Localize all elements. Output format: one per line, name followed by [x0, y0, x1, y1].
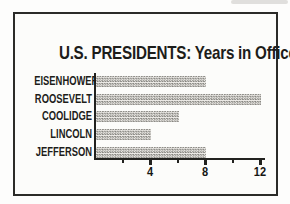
scan-artifact	[231, 0, 288, 4]
x-tick-label-4: 4	[142, 165, 159, 179]
x-tick-10	[232, 159, 234, 163]
category-label-lincoln: LINCOLN	[34, 128, 92, 141]
bar-jefferson	[96, 147, 206, 158]
category-label-eisenhower: EISENHOWER	[34, 75, 92, 88]
category-label-coolidge: COOLIDGE	[34, 110, 92, 123]
bar-row: EISENHOWER	[15, 75, 276, 88]
x-tick-label-8: 8	[197, 165, 214, 179]
bar-lincoln	[96, 129, 151, 140]
bar-row: LINCOLN	[15, 128, 276, 141]
bar-coolidge	[96, 111, 179, 122]
bar-row: JEFFERSON	[15, 146, 276, 159]
category-label-jefferson: JEFFERSON	[34, 146, 92, 159]
x-tick-6	[177, 159, 179, 163]
plot-area: EISENHOWER ROOSEVELT COOLIDGE LINCOLN JE…	[15, 14, 276, 194]
bar-roosevelt	[96, 94, 261, 105]
chart-frame: U.S. PRESIDENTS: Years in Office EISENHO…	[13, 12, 278, 196]
chart-area: U.S. PRESIDENTS: Years in Office EISENHO…	[15, 14, 276, 194]
scanned-figure: U.S. PRESIDENTS: Years in Office EISENHO…	[0, 0, 290, 204]
x-tick-label-12: 12	[252, 165, 269, 179]
bar-eisenhower	[96, 76, 206, 87]
category-label-roosevelt: ROOSEVELT	[34, 93, 92, 106]
bar-row: COOLIDGE	[15, 110, 276, 123]
x-tick-2	[122, 159, 124, 163]
bar-row: ROOSEVELT	[15, 93, 276, 106]
